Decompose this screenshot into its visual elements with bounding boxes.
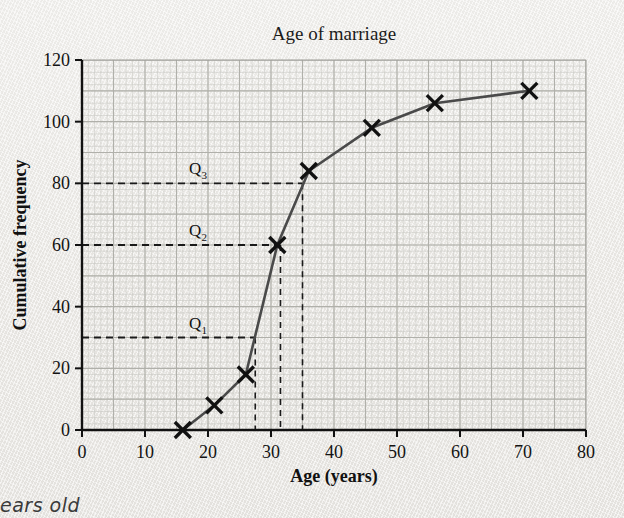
x-axis-title: Age (years) [290, 466, 377, 487]
x-tick-label: 60 [451, 442, 469, 462]
series-line [183, 91, 530, 430]
y-tick-label: 40 [52, 297, 70, 317]
quartile-label: Q1 [189, 314, 207, 336]
y-tick-label: 120 [43, 50, 70, 70]
y-tick-label: 100 [43, 112, 70, 132]
y-tick-label: 80 [52, 173, 70, 193]
y-tick-label: 20 [52, 358, 70, 378]
x-tick-label: 30 [262, 442, 280, 462]
y-tick-label: 0 [61, 420, 70, 440]
x-tick-label: 40 [325, 442, 343, 462]
chart-title: Age of marriage [272, 23, 397, 44]
x-tick-label: 50 [388, 442, 406, 462]
quartile-label: Q3 [189, 159, 207, 181]
y-axis-title: Cumulative frequency [10, 159, 30, 330]
quartile-label-subscript: 2 [201, 231, 207, 243]
cumulative-frequency-chart: 01020304050607080 020406080100120 Age of… [0, 0, 624, 518]
x-axis-ticks: 01020304050607080 [78, 430, 596, 462]
handwritten-note: ears old [0, 494, 80, 516]
x-tick-label: 10 [136, 442, 154, 462]
x-tick-label: 70 [514, 442, 532, 462]
quartile-labels: Q3Q2Q1 [189, 159, 207, 335]
quartile-label-subscript: 3 [201, 169, 207, 181]
data-series [175, 83, 538, 438]
x-tick-label: 0 [78, 442, 87, 462]
quartile-label: Q2 [189, 221, 207, 243]
y-axis-ticks: 020406080100120 [43, 50, 82, 440]
y-tick-label: 60 [52, 235, 70, 255]
x-tick-label: 80 [577, 442, 595, 462]
quartile-label-subscript: 1 [201, 324, 207, 336]
x-tick-label: 20 [199, 442, 217, 462]
